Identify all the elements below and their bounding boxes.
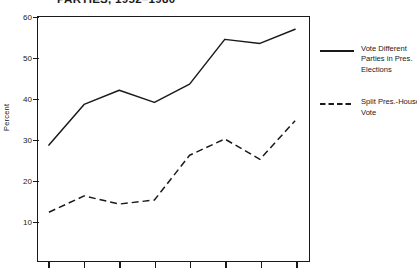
chart-legend: Vote Different Parties in Pres. Election… [320,44,417,140]
x-axis-tick-mark [84,261,85,268]
x-axis-tick-mark [190,261,191,268]
x-axis-tick-mark [119,261,120,268]
x-axis-tick-mark [155,261,156,268]
y-axis-tick-label: 30 [23,136,32,145]
series-line-vote-different-parties [49,29,295,145]
y-axis-tick-mark [33,140,39,141]
x-axis-tick-mark [296,261,297,268]
chart-figure: PARTIES, 1952–1980 Percent 102030405060 … [0,0,417,277]
plot-area: 102030405060 [37,16,310,262]
y-axis-tick-mark [33,222,39,223]
y-axis-tick-label: 40 [23,95,32,104]
series-line-split-pres-house-vote [49,121,295,212]
legend-label-line: Parties in Pres. [361,54,417,64]
x-axis-tick-mark [48,261,49,268]
legend-item-vote-different-parties: Vote Different Parties in Pres. Election… [320,44,417,75]
y-axis-tick-mark [33,181,39,182]
legend-label-split-pres-house-vote: Split Pres.-House Vote [361,97,417,118]
legend-label-line: Elections [361,65,417,75]
legend-item-split-pres-house-vote: Split Pres.-House Vote [320,97,417,118]
y-axis-tick-mark [33,99,39,100]
x-axis-tick-mark [261,261,262,268]
y-axis-tick-label: 50 [23,54,32,63]
series-lines [38,17,309,261]
legend-label-line: Vote [361,108,417,118]
legend-label-line: Split Pres.-House [361,97,417,107]
x-axis-tick-mark [225,261,226,268]
y-axis-tick-label: 60 [23,13,32,22]
chart-title: PARTIES, 1952–1980 [57,0,175,5]
y-axis-label: Percent [2,104,11,131]
y-axis-tick-mark [33,58,39,59]
y-axis-tick-label: 10 [23,218,32,227]
y-axis-tick-mark [33,17,39,18]
legend-label-line: Vote Different [361,44,417,54]
legend-label-vote-different-parties: Vote Different Parties in Pres. Election… [361,44,417,75]
y-axis-tick-label: 20 [23,177,32,186]
